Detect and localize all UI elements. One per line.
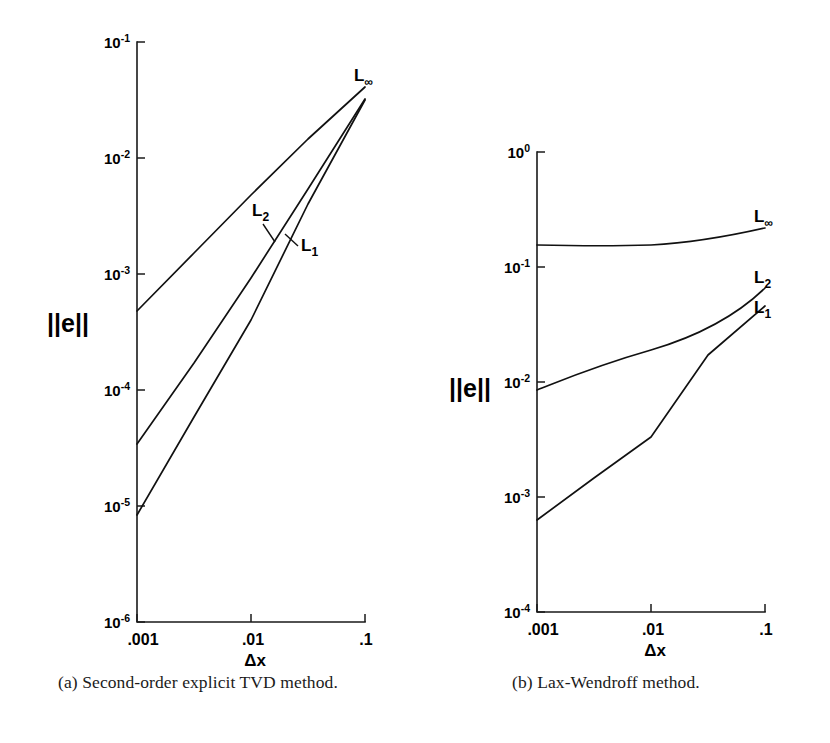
svg-text:L∞: L∞: [354, 66, 373, 89]
panel-a-y-axis-title: ||e||: [47, 309, 89, 337]
panel-a-axes: [137, 42, 365, 622]
panel-a-xtick-0: .001: [127, 631, 158, 648]
panel-b-curve-linf: [537, 228, 765, 246]
panel-b-curve-l1: [537, 306, 765, 520]
panel-a-y-tick-labels: 10-1 10-2 10-3 10-4 10-5 10-6: [104, 32, 130, 631]
panel-a-curve-l2: [137, 99, 365, 444]
panel-a-y-ticks: [137, 42, 145, 622]
panel-a-label-l1: L1: [285, 234, 318, 259]
panel-b-x-axis-title: Δx: [644, 641, 666, 660]
panel-b-xtick-0: .001: [527, 621, 558, 638]
panel-a-caption: (a) Second-order explicit TVD method.: [58, 672, 338, 693]
plot-canvas: 10-1 10-2 10-3 10-4 10-5 10-6 .001 .01 .…: [0, 0, 830, 743]
panel-b-ytick-0: 100: [507, 142, 530, 161]
panel-b-x-ticks: [537, 604, 765, 612]
panel-b-caption: (b) Lax-Wendroff method.: [512, 672, 700, 693]
panel-b-y-ticks: [537, 152, 545, 612]
svg-text:L1: L1: [301, 236, 318, 259]
svg-text:L2: L2: [754, 268, 771, 291]
panel-b-ytick-4: 10-4: [504, 602, 530, 621]
panel-b-label-linf: L∞: [754, 207, 773, 230]
panel-a-ytick-0: 10-1: [104, 32, 130, 51]
panel-b-y-axis-title: ||e||: [449, 374, 491, 402]
panel-a-label-l2: L2: [252, 201, 275, 242]
panel-a-x-axis-title: Δx: [244, 651, 266, 670]
panel-b-xtick-1: .01: [642, 621, 664, 638]
panel-a-ytick-5: 10-6: [104, 612, 130, 631]
panel-a-ytick-1: 10-2: [104, 148, 130, 167]
panel-b-x-tick-labels: .001 .01 .1: [527, 621, 772, 638]
panel-a-xtick-2: .1: [359, 631, 372, 648]
panel-b-ytick-2: 10-2: [504, 372, 530, 391]
panel-b-label-l1: L1: [754, 298, 771, 321]
panel-b-ytick-3: 10-3: [504, 487, 530, 506]
panel-b-curve-l2: [537, 288, 765, 390]
panel-b-label-l2: L2: [754, 268, 771, 291]
svg-text:L2: L2: [252, 201, 269, 224]
panel-a-xtick-1: .01: [242, 631, 264, 648]
panel-a-ytick-2: 10-3: [104, 264, 130, 283]
panel-b: 100 10-1 10-2 10-3 10-4 .001 .01 .1 Δx |…: [449, 142, 773, 660]
panel-a-curve-l1: [137, 100, 365, 515]
svg-text:L∞: L∞: [754, 207, 773, 230]
panel-b-axes: [537, 152, 765, 612]
panel-a-ytick-3: 10-4: [104, 380, 130, 399]
panel-b-ytick-1: 10-1: [504, 257, 530, 276]
panel-a-x-ticks: [137, 614, 365, 622]
panel-a-ytick-4: 10-5: [104, 496, 130, 515]
convergence-figure: 10-1 10-2 10-3 10-4 10-5 10-6 .001 .01 .…: [0, 0, 830, 743]
panel-a-x-tick-labels: .001 .01 .1: [127, 631, 372, 648]
panel-a: 10-1 10-2 10-3 10-4 10-5 10-6 .001 .01 .…: [47, 32, 373, 670]
svg-text:L1: L1: [754, 298, 771, 321]
panel-a-label-linf: L∞: [354, 66, 373, 89]
panel-b-y-tick-labels: 100 10-1 10-2 10-3 10-4: [504, 142, 530, 621]
panel-b-xtick-2: .1: [759, 621, 772, 638]
